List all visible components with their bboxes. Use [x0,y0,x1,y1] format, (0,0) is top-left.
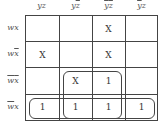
row-label-wnot-x: wx [2,102,24,111]
group-loop-row [29,98,155,119]
column-label-y-znot: yz [59,1,92,10]
column-label-ynot-z: yz [125,1,158,10]
cell-r2-c3 [125,68,158,94]
column-label-ynot-znot: yz [92,1,125,10]
cell-r1-c1 [59,42,92,68]
row-label-wnot-xnot: wx [2,76,24,85]
cell-r1-c0: X [26,42,59,68]
cell-r0-c0 [26,16,59,42]
row-label-w-xnot: wx [2,49,24,58]
cell-r1-c3 [125,42,158,68]
karnaugh-map-grid: X X X X 1 1 1 1 1 [25,15,158,121]
row-label-wx: wx [2,23,24,32]
column-label-yz: yz [25,1,58,10]
cell-r0-c1 [59,16,92,42]
cell-r0-c2: X [92,16,125,42]
cell-r0-c3 [125,16,158,42]
cell-r2-c0 [26,68,59,94]
cell-r1-c2: X [92,42,125,68]
